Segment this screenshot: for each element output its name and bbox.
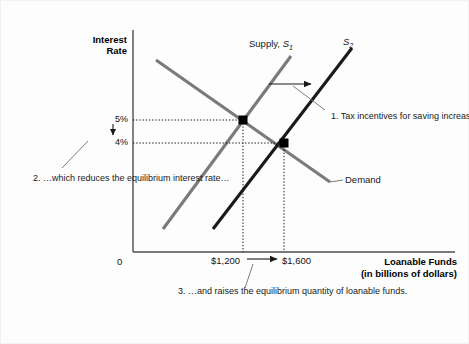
annotation-two-leader [62, 141, 88, 168]
y-tick-label-4pct: 4% [92, 137, 128, 148]
x-tick-label-1200: $1,200 [211, 255, 240, 267]
supply-s1-label: Supply, S1 [249, 38, 293, 53]
annotation-one: 1. Tax incentives for saving increase th… [331, 110, 453, 123]
demand-label: Demand [345, 174, 381, 186]
x-axis-title-line2: (in billions of dollars) [315, 268, 457, 280]
demand-label-leader [330, 180, 343, 182]
equilibrium-marker-initial [239, 116, 248, 125]
annotation-three: 3. …and raises the equilibrium quantity … [178, 285, 358, 298]
x-axis-title-line1: Loanable Funds [325, 256, 457, 268]
equilibrium-marker-new [280, 139, 289, 148]
x-tick-label-1600: $1,600 [282, 255, 311, 267]
annotation-two: 2. …which reduces the equilibrium intere… [33, 172, 125, 185]
supply-s2-label-subscript: 2 [349, 42, 353, 49]
supply-s1-label-text: Supply, [249, 38, 283, 49]
figure-container: Interest Rate 5% 4% 0 $1,200 $1,600 Loan… [0, 0, 469, 344]
origin-label: 0 [117, 256, 122, 268]
supply-s1-label-subscript: 1 [289, 44, 293, 51]
y-tick-label-5pct: 5% [92, 114, 128, 125]
y-axis-title-line2: Rate [63, 45, 127, 57]
supply-s2-label: S2 [343, 36, 353, 51]
